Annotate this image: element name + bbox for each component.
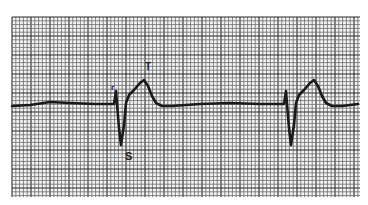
ecg-strip bbox=[0, 0, 368, 205]
r-wave-label: r bbox=[111, 84, 114, 92]
t-wave-label: T bbox=[145, 62, 151, 72]
ecg-grid bbox=[12, 17, 360, 197]
s-wave-label: S bbox=[125, 151, 132, 162]
